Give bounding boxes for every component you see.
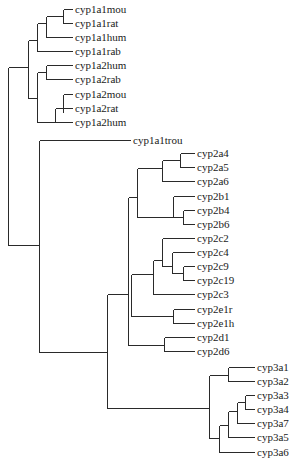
leaf-label-cyp2c19: cyp2c19 (197, 274, 234, 286)
leaf-label-cyp2c4: cyp2c4 (197, 246, 229, 258)
leaf-label-cyp2a4: cyp2a4 (197, 147, 229, 159)
leaf-label-cyp3a6: cyp3a6 (257, 446, 289, 458)
leaf-label-cyp3a3: cyp3a3 (257, 389, 289, 401)
leaf-label-cyp1a2rab: cyp1a2rab (75, 73, 121, 85)
leaf-label-cyp2c9: cyp2c9 (197, 260, 229, 272)
phylogenetic-tree (0, 0, 289, 463)
leaf-label-cyp2a5: cyp2a5 (197, 161, 229, 173)
leaf-label-cyp3a4: cyp3a4 (257, 403, 289, 415)
leaf-label-cyp2a6: cyp2a6 (197, 175, 229, 187)
leaf-label-cyp1a1rat: cyp1a1rat (75, 17, 118, 29)
leaf-label-cyp2d1: cyp2d1 (197, 331, 229, 343)
leaf-label-cyp2d6: cyp2d6 (197, 345, 229, 357)
leaf-label-cyp3a7: cyp3a7 (257, 417, 289, 429)
leaf-label-cyp1a1mou: cyp1a1mou (75, 3, 126, 15)
leaf-label-cyp1a2mou: cyp1a2mou (75, 88, 126, 100)
leaf-label-cyp1a2rat: cyp1a2rat (75, 102, 118, 114)
leaf-label-cyp2c2: cyp2c2 (197, 232, 229, 244)
leaf-label-cyp2b1: cyp2b1 (197, 190, 229, 202)
leaf-label-cyp1a2hum: cyp1a2hum (75, 116, 126, 128)
leaf-label-cyp2c3: cyp2c3 (197, 288, 229, 300)
leaf-label-cyp1a1trou: cyp1a1trou (133, 134, 182, 146)
leaf-label-cyp2b4: cyp2b4 (197, 204, 229, 216)
leaf-label-cyp1a2hum: cyp1a2hum (75, 59, 126, 71)
leaf-label-cyp2b6: cyp2b6 (197, 218, 229, 230)
leaf-label-cyp1a1rab: cyp1a1rab (75, 45, 121, 57)
leaf-label-cyp3a2: cyp3a2 (257, 375, 289, 387)
leaf-label-cyp3a1: cyp3a1 (257, 361, 289, 373)
leaf-label-cyp2e1h: cyp2e1h (197, 317, 234, 329)
leaf-label-cyp1a1hum: cyp1a1hum (75, 31, 126, 43)
leaf-label-cyp3a5: cyp3a5 (257, 431, 289, 443)
leaf-label-cyp2e1r: cyp2e1r (197, 303, 232, 315)
